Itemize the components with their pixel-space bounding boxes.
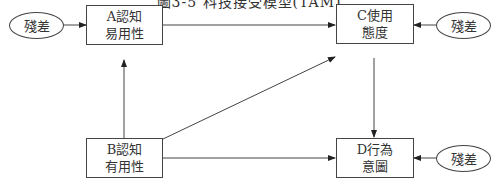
residual-ellipse-a: 殘差 xyxy=(9,12,64,39)
residual-ellipse-d: 殘差 xyxy=(436,145,491,172)
node-c-attitude-toward-use: C使用 態度 xyxy=(336,4,414,44)
node-label-line2: 意圖 xyxy=(362,158,388,175)
residual-ellipse-c: 殘差 xyxy=(436,12,491,39)
node-d-behavioral-intention: D行為 意圖 xyxy=(336,138,414,178)
node-label-line1: B認知 xyxy=(107,141,143,158)
node-label-line2: 有用性 xyxy=(105,158,144,175)
node-b-perceived-usefulness: B認知 有用性 xyxy=(86,138,163,178)
diagram-edges xyxy=(0,0,498,184)
edge-b-c xyxy=(163,57,335,139)
node-label-line1: D行為 xyxy=(357,141,393,158)
residual-label: 殘差 xyxy=(24,16,50,35)
residual-label: 殘差 xyxy=(451,149,477,168)
node-label-line1: C使用 xyxy=(357,7,393,24)
node-label-line2: 易用性 xyxy=(105,25,144,42)
residual-label: 殘差 xyxy=(451,16,477,35)
node-a-perceived-ease-of-use: A認知 易用性 xyxy=(86,5,163,45)
node-label-line1: A認知 xyxy=(107,8,142,25)
node-label-line2: 態度 xyxy=(362,24,388,41)
